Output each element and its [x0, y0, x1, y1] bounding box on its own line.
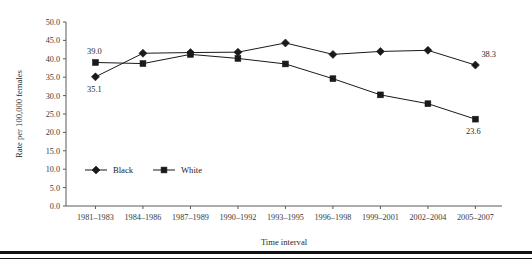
- y-tick-label: 45.0: [46, 36, 60, 45]
- data-point: [281, 39, 289, 47]
- data-point: [234, 48, 242, 56]
- data-point: [424, 46, 432, 54]
- data-point: [140, 61, 146, 67]
- x-tick-label: 1993–1995: [267, 213, 304, 222]
- legend-marker-diamond: [92, 166, 100, 174]
- y-tick-label: 0.0: [50, 202, 60, 211]
- data-label: 23.6: [466, 127, 481, 136]
- legend-label: White: [181, 165, 202, 175]
- series-white: [93, 51, 479, 122]
- series-line: [95, 43, 475, 77]
- data-label: 39.0: [87, 47, 102, 56]
- series-layer: [91, 39, 479, 122]
- footer-rule-thick: [0, 251, 532, 254]
- y-tick-label: 15.0: [46, 147, 60, 156]
- legend-marker-square: [161, 167, 167, 173]
- legend-item-black: Black: [85, 165, 134, 175]
- data-point: [473, 116, 479, 122]
- data-point: [330, 76, 336, 82]
- y-tick-label: 25.0: [46, 110, 60, 119]
- y-tick-label: 5.0: [50, 184, 60, 193]
- x-axis-title: Time interval: [261, 237, 308, 247]
- data-point: [376, 47, 384, 55]
- data-label: 35.1: [87, 85, 102, 94]
- line-chart: 0.05.010.015.020.025.030.035.040.045.050…: [0, 0, 532, 250]
- y-tick-label: 50.0: [46, 18, 60, 27]
- series-black: [91, 39, 479, 81]
- x-tick-label: 1984–1986: [125, 213, 162, 222]
- data-point: [425, 101, 431, 107]
- y-tick-label: 20.0: [46, 128, 60, 137]
- y-tick-label: 30.0: [46, 92, 60, 101]
- x-tick-label: 1987–1989: [172, 213, 209, 222]
- x-tick-label: 2005–2007: [457, 213, 494, 222]
- data-label: 38.3: [481, 50, 496, 59]
- chart-legend: BlackWhite: [85, 165, 202, 175]
- y-tick-label: 40.0: [46, 55, 60, 64]
- data-point: [188, 51, 194, 57]
- y-tick-label: 35.0: [46, 73, 60, 82]
- data-point: [378, 92, 384, 98]
- footer-rule-thin: [0, 258, 532, 260]
- data-point: [283, 61, 289, 67]
- y-axis-title: Rate per 100,000 females: [14, 69, 24, 157]
- x-tick-label: 1999–2001: [362, 213, 399, 222]
- x-tick-label: 1981–1983: [77, 213, 114, 222]
- data-point: [235, 56, 241, 62]
- chart-figure: 0.05.010.015.020.025.030.035.040.045.050…: [0, 0, 532, 268]
- data-labels: 39.035.138.323.6: [87, 47, 496, 136]
- x-axis-ticks: 1981–19831984–19861987–19891990–19921993…: [77, 206, 494, 222]
- data-point: [91, 73, 99, 81]
- x-tick-label: 2002–2004: [409, 213, 446, 222]
- x-tick-label: 1996–1998: [314, 213, 351, 222]
- data-point: [329, 50, 337, 58]
- data-point: [139, 49, 147, 57]
- x-tick-label: 1990–1992: [220, 213, 257, 222]
- legend-label: Black: [113, 165, 134, 175]
- y-axis-ticks: 0.05.010.015.020.025.030.035.040.045.050…: [46, 18, 66, 211]
- data-point: [471, 61, 479, 69]
- y-tick-label: 10.0: [46, 165, 60, 174]
- data-point: [93, 60, 99, 66]
- legend-item-white: White: [153, 165, 202, 175]
